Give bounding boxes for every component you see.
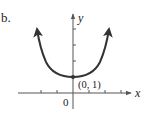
x-axis-label: x — [135, 87, 140, 99]
curve-left-branch — [37, 29, 73, 77]
panel-label: b. — [1, 11, 11, 24]
curve-right-branch — [73, 29, 109, 77]
vertex-point-label: (0, 1) — [78, 80, 101, 91]
origin-label: 0 — [63, 97, 69, 108]
y-axis-label: y — [78, 12, 83, 24]
vertex-point — [71, 75, 75, 79]
